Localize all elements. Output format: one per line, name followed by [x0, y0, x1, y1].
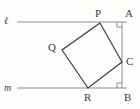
- right-angle-marker-a: [117, 22, 122, 27]
- point-label-p: P: [95, 8, 101, 19]
- figure-canvas: [0, 0, 140, 109]
- point-label-b: B: [124, 92, 131, 103]
- point-label-c: C: [126, 56, 133, 67]
- right-angle-marker-b: [117, 83, 122, 88]
- square-pqrc: [62, 23, 122, 88]
- point-label-r: R: [84, 92, 91, 103]
- point-label-q: Q: [48, 42, 56, 53]
- geometry-figure: ℓ m P Q R C A B: [0, 0, 140, 109]
- line-label-m: m: [4, 83, 11, 93]
- line-label-l: ℓ: [4, 16, 8, 26]
- point-label-a: A: [125, 8, 133, 19]
